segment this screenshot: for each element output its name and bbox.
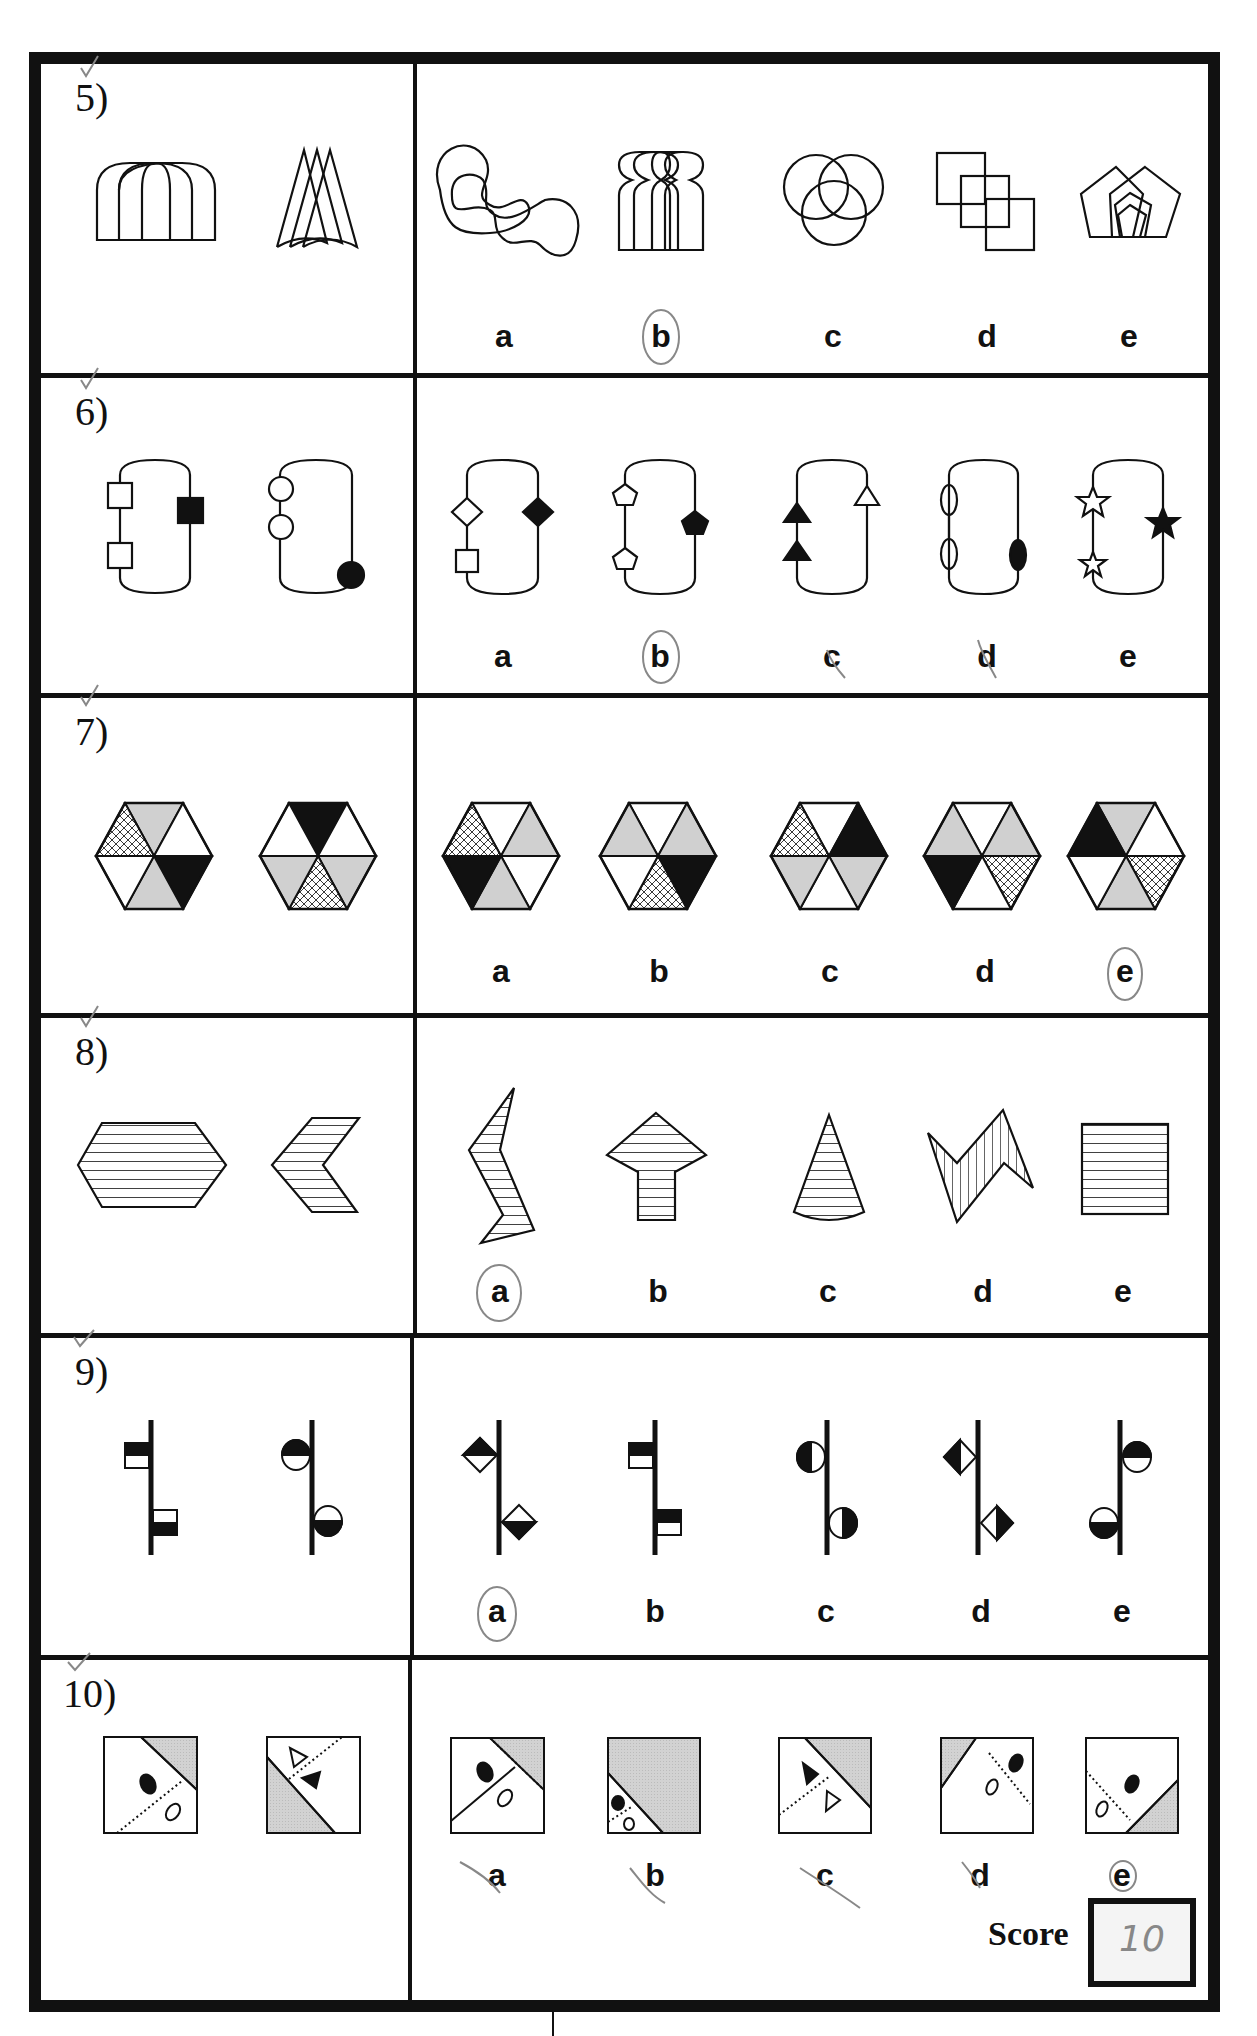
score-value: 10 xyxy=(1094,1918,1190,1959)
option-6e-stars-loop xyxy=(1077,460,1179,594)
option-5c-circles xyxy=(784,155,883,245)
figure-9-circles xyxy=(282,1420,342,1555)
figures-layer xyxy=(0,0,1257,2036)
option-10b-square xyxy=(608,1738,700,1833)
figure-8-hexagon xyxy=(78,1123,226,1207)
figure-9-squares xyxy=(125,1420,177,1555)
answer-circle-8a xyxy=(477,1265,521,1321)
option-6c-triangles-loop xyxy=(784,460,879,594)
option-9d-diamonds xyxy=(944,1420,1013,1555)
option-7e-hexagon xyxy=(1068,803,1184,909)
answer-circle-10e xyxy=(1110,1861,1136,1891)
option-9b-squares xyxy=(629,1420,681,1555)
answer-circle-7e xyxy=(1108,948,1142,1000)
option-9a-diamonds xyxy=(463,1420,536,1555)
answer-circle-9a xyxy=(478,1587,516,1641)
option-8c-cone xyxy=(794,1115,864,1220)
option-5a-blobs xyxy=(437,146,578,256)
pencil-marks xyxy=(68,56,1142,1908)
option-8a-zigzag xyxy=(469,1088,534,1243)
option-5d-squares xyxy=(937,153,1034,250)
option-7d-hexagon xyxy=(924,803,1040,909)
option-6a-diamonds-loop xyxy=(452,460,553,594)
option-10e-square xyxy=(1086,1738,1178,1833)
score-label: Score xyxy=(988,1915,1069,1953)
option-10d-square xyxy=(941,1738,1033,1833)
option-9e-circles xyxy=(1090,1420,1151,1555)
option-7a-hexagon xyxy=(443,803,559,909)
score-box[interactable]: 10 xyxy=(1088,1898,1196,1987)
hexagon-figures xyxy=(96,803,1184,909)
figure-7-hexagon-2 xyxy=(260,803,376,909)
option-9c-circles xyxy=(797,1420,857,1555)
option-8e-square xyxy=(1082,1124,1168,1214)
option-5b-arches xyxy=(619,152,703,250)
figure-6-circles-loop xyxy=(269,460,364,593)
figure-10-square-2 xyxy=(267,1737,360,1833)
figure-6-squares-loop xyxy=(108,460,203,593)
figure-5-arches xyxy=(97,163,215,240)
figure-8-chevron xyxy=(272,1118,359,1212)
option-8d-zigzag xyxy=(928,1110,1033,1222)
answer-circle-5b xyxy=(643,310,679,364)
option-7c-hexagon xyxy=(771,803,887,909)
figure-5-cones xyxy=(277,150,357,247)
option-10a-square xyxy=(451,1738,544,1833)
option-8b-arrow xyxy=(607,1113,706,1220)
option-6b-pentagons-loop xyxy=(613,460,708,594)
option-7b-hexagon xyxy=(600,803,716,909)
answer-circle-6b xyxy=(643,631,679,683)
option-5e-pentagons xyxy=(1081,167,1180,237)
option-10c-square xyxy=(779,1738,871,1833)
option-6d-ellipses-loop xyxy=(941,460,1026,594)
figure-7-hexagon-1 xyxy=(96,803,212,909)
figure-10-square-1 xyxy=(104,1737,197,1833)
